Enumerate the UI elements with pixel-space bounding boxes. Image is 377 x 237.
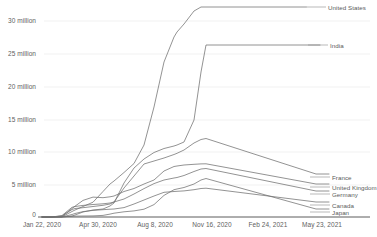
xtick-label-may-23-2021: May 23, 2021 [282, 221, 362, 228]
series-label-germany: Germany [332, 191, 358, 198]
series-line-canada [42, 188, 329, 217]
ytick-label-5m: 5 million [0, 181, 36, 188]
label-leader-lines [306, 7, 330, 212]
ytick-label-10m: 10 million [0, 148, 36, 155]
gridlines [44, 21, 370, 185]
series-label-canada: Canada [332, 202, 354, 209]
ytick-label-15m: 15 million [0, 116, 36, 123]
ytick-label-0: 0 [0, 211, 36, 218]
series-label-france: France [332, 174, 352, 181]
series-label-united-states: United States [328, 4, 366, 11]
series-label-india: India [330, 42, 344, 49]
series-label-united-kingdom: United Kingdom [332, 184, 377, 191]
ytick-label-20m: 20 million [0, 83, 36, 90]
ytick-label-30m: 30 million [0, 17, 36, 24]
series-label-japan: Japan [332, 209, 349, 216]
series-line-germany [42, 169, 329, 218]
ytick-label-25m: 25 million [0, 50, 36, 57]
